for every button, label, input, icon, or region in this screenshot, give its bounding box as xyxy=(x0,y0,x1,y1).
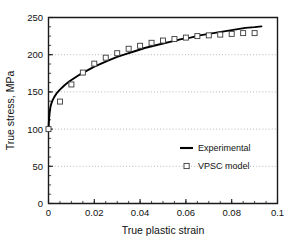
y-tick-label: 50 xyxy=(32,161,43,172)
series-vpsc-marker xyxy=(183,35,188,40)
series-vpsc-marker xyxy=(218,32,223,37)
legend-label-vpsc: VPSC model xyxy=(198,161,250,171)
chart-figure: 00.020.040.060.080.1050100150200250True … xyxy=(0,0,295,244)
series-vpsc-marker xyxy=(229,31,234,36)
series-vpsc-marker xyxy=(241,31,246,36)
x-tick-label: 0.08 xyxy=(222,207,241,218)
series-vpsc-marker xyxy=(172,37,177,42)
series-vpsc-marker xyxy=(138,43,143,48)
y-tick-label: 250 xyxy=(27,12,43,23)
x-axis-title: True plastic strain xyxy=(122,224,205,236)
series-vpsc-marker xyxy=(92,61,97,66)
series-vpsc-marker xyxy=(103,55,108,60)
y-tick-label: 200 xyxy=(27,49,43,60)
x-tick-label: 0 xyxy=(46,207,51,218)
series-vpsc-marker xyxy=(126,46,131,51)
x-tick-label: 0.1 xyxy=(271,207,284,218)
series-vpsc-marker xyxy=(69,82,74,87)
y-tick-label: 0 xyxy=(38,198,43,209)
series-vpsc-marker xyxy=(80,70,85,75)
y-tick-label: 100 xyxy=(27,124,43,135)
plot-frame xyxy=(49,18,278,204)
series-vpsc-marker xyxy=(206,33,211,38)
series-vpsc-marker xyxy=(57,99,62,104)
series-vpsc-marker xyxy=(115,51,120,56)
series-vpsc-marker xyxy=(46,127,51,132)
series-vpsc-marker xyxy=(252,31,257,36)
y-axis-title: True stress, MPa xyxy=(4,71,16,151)
series-vpsc-marker xyxy=(149,40,154,45)
legend-label-experimental: Experimental xyxy=(198,143,251,153)
series-vpsc-marker xyxy=(161,38,166,43)
x-tick-label: 0.02 xyxy=(85,207,104,218)
x-tick-label: 0.06 xyxy=(177,207,196,218)
stress-strain-chart: 00.020.040.060.080.1050100150200250True … xyxy=(0,0,295,244)
series-vpsc-marker xyxy=(195,34,200,39)
legend-marker-vpsc xyxy=(184,163,189,168)
y-tick-label: 150 xyxy=(27,86,43,97)
x-tick-label: 0.04 xyxy=(131,207,150,218)
series-experimental-line xyxy=(49,26,262,129)
